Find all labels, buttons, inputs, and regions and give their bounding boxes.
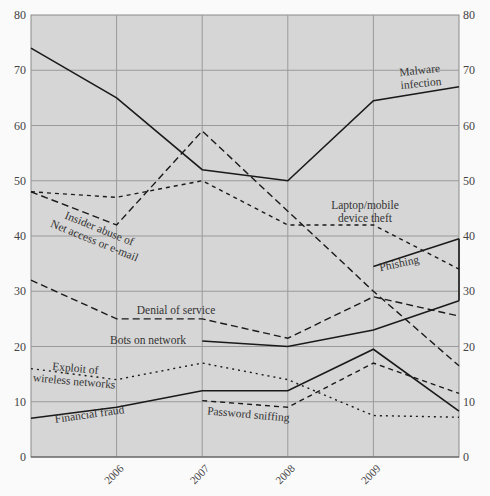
annotation-line: Denial of service xyxy=(137,304,216,316)
y-tick-label-left: 20 xyxy=(14,340,26,354)
y-tick-label-right: 20 xyxy=(463,340,475,354)
annotation-malware-infection: Malwareinfection xyxy=(399,62,443,91)
x-axis: 2006200720082009 xyxy=(102,462,383,486)
y-tick-label-right: 70 xyxy=(463,63,475,77)
y-tick-label-left: 0 xyxy=(20,450,26,464)
y-tick-label-left: 30 xyxy=(14,284,26,298)
annotation-bots-on-network: Bots on network xyxy=(110,334,186,346)
x-tick-label: 2008 xyxy=(273,462,297,486)
y-tick-label-right: 0 xyxy=(463,450,469,464)
annotation-denial-of-service: Denial of service xyxy=(137,304,216,316)
annotation-laptop-mobile-device-theft: Laptop/mobiledevice theft xyxy=(331,199,399,224)
chart-canvas: 01020304050607080 01020304050607080 2006… xyxy=(0,0,490,496)
y-tick-label-left: 70 xyxy=(14,63,26,77)
y-tick-label-right: 10 xyxy=(463,395,475,409)
x-tick-label: 2007 xyxy=(187,462,211,486)
y-tick-label-left: 40 xyxy=(14,229,26,243)
y-axis-left: 01020304050607080 xyxy=(14,8,26,464)
y-tick-label-right: 60 xyxy=(463,119,475,133)
y-tick-label-left: 60 xyxy=(14,119,26,133)
annotation-line: Laptop/mobile xyxy=(331,199,399,212)
y-tick-label-left: 50 xyxy=(14,174,26,188)
y-tick-label-right: 30 xyxy=(463,284,475,298)
annotation-line: Bots on network xyxy=(110,334,186,346)
y-tick-label-right: 50 xyxy=(463,174,475,188)
y-tick-label-left: 80 xyxy=(14,8,26,22)
annotation-line: device theft xyxy=(338,212,393,224)
line-chart: 01020304050607080 01020304050607080 2006… xyxy=(0,0,490,496)
y-tick-label-left: 10 xyxy=(14,395,26,409)
y-axis-right: 01020304050607080 xyxy=(463,8,475,464)
x-tick-label: 2006 xyxy=(102,462,126,486)
y-tick-label-right: 40 xyxy=(463,229,475,243)
x-tick-label: 2009 xyxy=(359,462,383,486)
y-tick-label-right: 80 xyxy=(463,8,475,22)
